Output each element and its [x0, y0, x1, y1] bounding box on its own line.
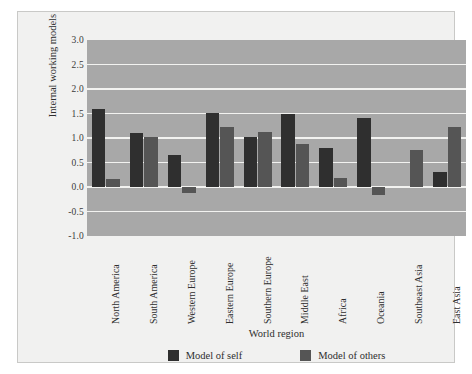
bar-group [428, 40, 466, 236]
bar-group [390, 40, 428, 236]
bar-model-of-others [372, 187, 386, 195]
bar-model-of-others [220, 127, 234, 187]
bar-model-of-others [144, 137, 158, 187]
bar-model-of-self [168, 155, 182, 187]
bar-group [125, 40, 163, 236]
bar-model-of-self [319, 148, 333, 187]
x-tick-label: Oceania [375, 291, 386, 324]
x-tick-label: Western Europe [186, 260, 197, 324]
bar-group [87, 40, 125, 236]
bar-group [277, 40, 315, 236]
bar-group [201, 40, 239, 236]
x-tick-label: North America [110, 264, 121, 324]
x-tick-label: East Asia [451, 286, 462, 324]
legend-swatch-icon [300, 350, 311, 361]
bar-group [239, 40, 277, 236]
bar-model-of-others [410, 150, 424, 187]
bar-model-of-others [258, 132, 272, 187]
bar-model-of-self [206, 113, 220, 187]
y-tick-label: -0.5 [36, 207, 84, 217]
y-tick-label: 0.0 [36, 182, 84, 192]
bar-model-of-others [182, 187, 196, 193]
x-tick-label: South America [148, 264, 159, 324]
legend-label: Model of self [186, 350, 243, 361]
chart-legend: Model of selfModel of others [87, 345, 466, 365]
legend-swatch-icon [168, 350, 179, 361]
y-tick-label: 0.5 [36, 158, 84, 168]
bar-model-of-self [357, 118, 371, 187]
bar-model-of-others [334, 178, 348, 187]
x-axis-title: World region [87, 328, 466, 339]
y-tick-label: 3.0 [36, 35, 84, 45]
bar-model-of-self [433, 172, 447, 187]
x-tick-label: Southern Europe [262, 256, 273, 324]
chart-figure: Internal working models 3.02.52.01.51.00… [0, 0, 472, 374]
legend-label: Model of others [318, 350, 385, 361]
x-tick-label: Eastern Europe [224, 262, 235, 324]
y-axis-ticks: 3.02.52.01.51.00.50.0-0.5-1.0 [34, 40, 84, 236]
bar-group [314, 40, 352, 236]
y-tick-label: 1.0 [36, 133, 84, 143]
x-tick-label: Africa [337, 298, 348, 324]
bar-model-of-others [448, 127, 462, 187]
legend-entry[interactable]: Model of others [300, 350, 385, 361]
chart-panel: Internal working models 3.02.52.01.51.00… [17, 11, 455, 363]
y-tick-label: -1.0 [36, 231, 84, 241]
x-tick-label: Southeast Asia [413, 265, 424, 324]
bar-group [163, 40, 201, 236]
legend-entry[interactable]: Model of self [168, 350, 243, 361]
x-tick-label: Middle East [299, 275, 310, 324]
bar-model-of-others [106, 179, 120, 187]
bar-model-of-others [296, 144, 310, 187]
bar-model-of-self [130, 133, 144, 187]
bar-model-of-self [244, 137, 258, 187]
bar-model-of-self [92, 109, 106, 187]
y-tick-label: 1.5 [36, 109, 84, 119]
bar-group [352, 40, 390, 236]
bar-model-of-self [281, 114, 295, 187]
x-axis-ticks: North AmericaSouth AmericaWestern Europe… [87, 236, 466, 332]
plot-area [87, 40, 466, 236]
y-tick-label: 2.0 [36, 84, 84, 94]
y-tick-label: 2.5 [36, 60, 84, 70]
